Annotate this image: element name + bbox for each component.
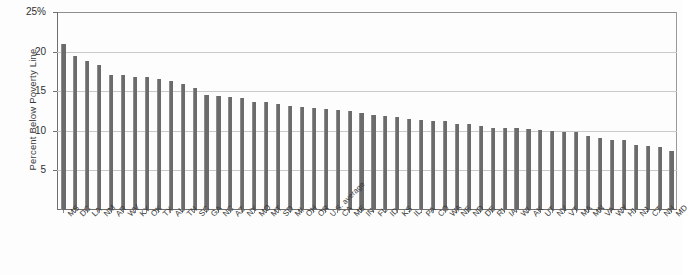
bar — [491, 128, 495, 210]
bar — [646, 146, 650, 210]
y-tick-label-5: 5 — [0, 164, 46, 175]
bar — [85, 61, 89, 210]
bar — [562, 132, 566, 210]
plot-area: 510152025% — [57, 12, 677, 210]
y-tick-label-25: 25% — [0, 6, 46, 17]
y-tick-label-15: 15 — [0, 85, 46, 96]
bar — [550, 131, 554, 210]
bar — [216, 96, 220, 210]
bar — [276, 104, 280, 210]
bar — [455, 124, 459, 210]
bar — [312, 108, 316, 210]
bar — [514, 128, 518, 210]
bar — [324, 109, 328, 210]
bar — [586, 136, 590, 210]
bar — [431, 121, 435, 210]
bar — [288, 106, 292, 210]
bar — [658, 147, 662, 210]
bar — [97, 65, 101, 210]
bar — [204, 95, 208, 210]
bar — [61, 44, 65, 210]
bar — [538, 130, 542, 210]
y-axis-title: Percent Below Poverty Line — [27, 10, 38, 210]
bar — [479, 126, 483, 210]
bar — [193, 88, 197, 210]
bar — [467, 124, 471, 210]
bar — [121, 75, 125, 210]
bar — [503, 128, 507, 210]
bar — [228, 97, 232, 210]
bar — [622, 140, 626, 210]
bar — [574, 132, 578, 210]
bar — [169, 81, 173, 210]
bar — [252, 102, 256, 211]
bar — [133, 77, 137, 210]
y-tick-label-10: 10 — [0, 125, 46, 136]
bar — [359, 113, 363, 210]
bar — [407, 119, 411, 210]
bar — [145, 77, 149, 210]
x-axis-labels: MSDCLANMARWVKYOKTXALTNSCGANCAZNYMOMTSDMI… — [57, 212, 677, 272]
bar — [300, 107, 304, 210]
bar — [610, 140, 614, 210]
bar — [109, 75, 113, 210]
bar — [598, 138, 602, 210]
bar — [336, 110, 340, 210]
bar-series — [57, 12, 677, 210]
bar — [240, 98, 244, 210]
bar — [181, 84, 185, 210]
bar — [634, 145, 638, 210]
bar — [383, 116, 387, 210]
bar — [669, 151, 673, 210]
bar — [443, 121, 447, 210]
bar — [395, 117, 399, 210]
bar — [157, 79, 161, 210]
bar — [419, 120, 423, 210]
y-tick-label-20: 20 — [0, 46, 46, 57]
bar — [73, 56, 77, 210]
bar — [371, 115, 375, 210]
bar — [526, 129, 530, 210]
bar — [264, 102, 268, 210]
